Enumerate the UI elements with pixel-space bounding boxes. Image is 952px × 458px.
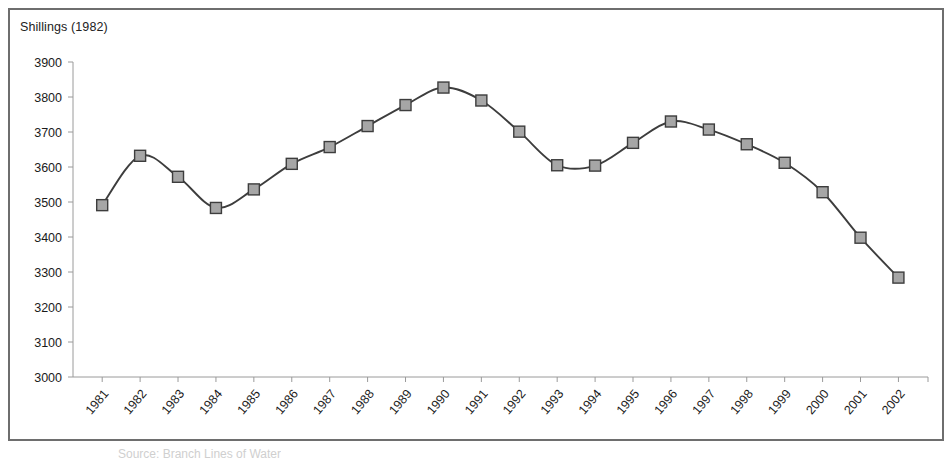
svg-text:3600: 3600 xyxy=(34,161,62,175)
svg-text:1981: 1981 xyxy=(83,387,112,417)
chart-figure: Shillings (1982) 30003100320033003400350… xyxy=(0,0,952,458)
svg-text:2000: 2000 xyxy=(803,387,832,417)
svg-text:3100: 3100 xyxy=(34,336,62,350)
svg-text:2002: 2002 xyxy=(879,387,908,417)
svg-text:1990: 1990 xyxy=(424,387,453,417)
svg-text:1991: 1991 xyxy=(462,387,491,417)
svg-text:1985: 1985 xyxy=(235,387,264,417)
svg-text:1986: 1986 xyxy=(272,387,301,417)
svg-text:1997: 1997 xyxy=(690,387,719,417)
svg-text:1987: 1987 xyxy=(310,387,339,417)
svg-text:1989: 1989 xyxy=(386,387,415,417)
svg-text:1996: 1996 xyxy=(652,387,681,417)
svg-text:1993: 1993 xyxy=(538,387,567,417)
svg-text:2001: 2001 xyxy=(841,387,870,417)
svg-text:3800: 3800 xyxy=(34,91,62,105)
svg-text:3300: 3300 xyxy=(34,266,62,280)
svg-text:3900: 3900 xyxy=(34,56,62,70)
svg-text:1994: 1994 xyxy=(576,387,605,417)
svg-text:3500: 3500 xyxy=(34,196,62,210)
line-chart-plot: 3000310032003300340035003600370038003900… xyxy=(0,0,952,458)
figure-caption: Source: Branch Lines of Water xyxy=(118,447,281,458)
svg-text:1988: 1988 xyxy=(348,387,377,417)
svg-text:1999: 1999 xyxy=(765,387,794,417)
svg-text:1982: 1982 xyxy=(121,387,150,417)
svg-text:1983: 1983 xyxy=(159,387,188,417)
svg-text:1995: 1995 xyxy=(614,387,643,417)
svg-text:3000: 3000 xyxy=(34,371,62,385)
svg-text:3200: 3200 xyxy=(34,301,62,315)
svg-text:3700: 3700 xyxy=(34,126,62,140)
svg-text:1984: 1984 xyxy=(197,387,226,417)
svg-text:3400: 3400 xyxy=(34,231,62,245)
svg-text:1992: 1992 xyxy=(500,387,529,417)
svg-text:1998: 1998 xyxy=(727,387,756,417)
